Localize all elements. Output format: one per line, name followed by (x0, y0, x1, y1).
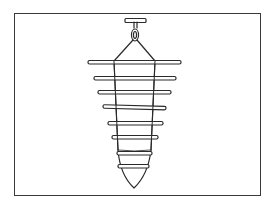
hanger-bar (125, 19, 146, 23)
cone-trap-drawing (0, 0, 274, 208)
hook-ring-icon (132, 29, 139, 41)
suspension-string-right (137, 40, 155, 61)
rungs (88, 61, 181, 169)
suspension-string-left (114, 40, 133, 61)
